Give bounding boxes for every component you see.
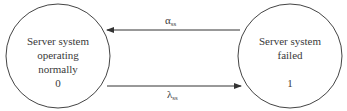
transition-label-lambda: λss [167,88,178,102]
state-node-1-label-line-1: Server system [250,34,330,48]
state-node-0-label-line-3: normally [18,62,98,76]
state-node-0-label: Server system operating normally [18,34,98,76]
lambda-subscript: ss [172,94,177,102]
state-node-0-number: 0 [48,77,68,89]
alpha-subscript: ss [171,20,176,28]
state-node-1-label-line-2: failed [250,48,330,62]
state-node-1-number: 1 [280,77,300,89]
state-node-0-label-line-2: operating [18,48,98,62]
transition-label-alpha: αss [165,14,176,28]
state-node-1-label: Server system failed [250,34,330,62]
state-node-0-label-line-1: Server system [18,34,98,48]
